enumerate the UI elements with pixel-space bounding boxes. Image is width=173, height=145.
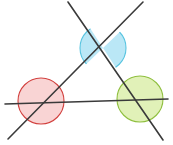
geometry-figure [0, 0, 173, 145]
figure-background [0, 0, 173, 145]
figure-canvas [0, 0, 173, 145]
red-angle-region [18, 78, 64, 124]
